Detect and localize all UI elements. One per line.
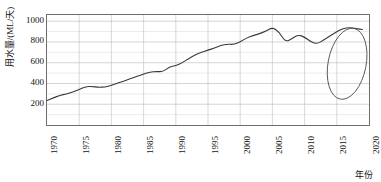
data-layer <box>47 15 369 125</box>
x-axis-tick-label: 1975 <box>82 136 91 154</box>
y-axis-title: 用水量/(ML/天) <box>5 0 15 85</box>
x-axis-tick-label: 1995 <box>211 136 220 154</box>
x-axis-tick-labels: 1970197519801985199019952000200520102015… <box>0 128 379 168</box>
x-axis-tick-label: 1990 <box>178 136 187 154</box>
y-axis-tick-label: 800 <box>18 36 44 45</box>
y-axis-tick-label: 600 <box>18 57 44 66</box>
x-axis-title: 年份 <box>355 170 373 180</box>
x-axis-tick-label: 1970 <box>50 136 59 154</box>
x-axis-tick-label: 2015 <box>339 136 348 154</box>
y-axis-tick-label: 1000 <box>18 16 44 25</box>
plot-area <box>46 14 370 126</box>
x-axis-tick-label: 2000 <box>243 136 252 154</box>
x-axis-tick-label: 2010 <box>307 136 316 154</box>
x-axis-tick-label: 1980 <box>114 136 123 154</box>
x-axis-tick-label: 2005 <box>275 136 284 154</box>
x-axis-tick-label: 2020 <box>372 136 381 154</box>
y-axis-tick-label: 400 <box>18 78 44 87</box>
y-axis-tick-label: 200 <box>18 99 44 108</box>
x-axis-tick-label: 1985 <box>146 136 155 154</box>
